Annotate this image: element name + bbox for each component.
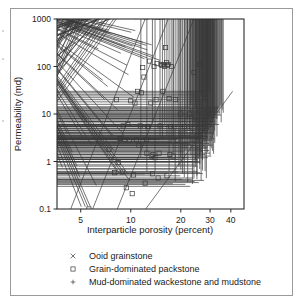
legend-marker-square bbox=[71, 267, 75, 271]
data-point bbox=[0, 0, 137, 19]
legend-marker-x bbox=[71, 254, 76, 259]
data-point bbox=[0, 0, 128, 75]
data-point bbox=[0, 0, 147, 50]
legend-label: Grain-dominated packstone bbox=[89, 264, 200, 274]
data-point bbox=[0, 0, 160, 60]
data-point bbox=[0, 0, 188, 110]
data-point bbox=[129, 99, 133, 103]
y-tick-label: 0.1 bbox=[39, 204, 51, 214]
legend-label: Mud-dominated wackestone and mudstone bbox=[89, 277, 261, 287]
data-point bbox=[0, 0, 149, 19]
x-axis-title: Interparticle porosity (percent) bbox=[87, 224, 213, 235]
data-point bbox=[0, 0, 145, 19]
y-tick-label: 10 bbox=[42, 109, 52, 119]
y-tick-label: 1000 bbox=[32, 14, 51, 24]
data-point bbox=[141, 65, 145, 69]
data-point bbox=[0, 0, 146, 45]
y-tick-label: 1 bbox=[46, 157, 51, 167]
data-point bbox=[0, 0, 205, 138]
x-tick-label: 40 bbox=[226, 215, 236, 225]
data-point bbox=[0, 0, 158, 19]
data-series-group bbox=[0, 0, 223, 211]
data-point bbox=[0, 0, 133, 46]
permeability-porosity-scatter-chart: 0.11101001000 510203040 Interparticle po… bbox=[0, 0, 304, 308]
legend-label: Ooid grainstone bbox=[89, 251, 153, 261]
data-point bbox=[0, 0, 198, 138]
data-point bbox=[0, 0, 111, 34]
data-point bbox=[0, 0, 197, 116]
x-tick-label: 5 bbox=[78, 215, 83, 225]
y-axis-ticks: 0.11101001000 bbox=[32, 14, 57, 214]
data-point bbox=[0, 0, 195, 110]
x-axis-ticks: 510203040 bbox=[78, 209, 235, 225]
data-point bbox=[0, 0, 144, 18]
data-point bbox=[0, 0, 160, 20]
data-point bbox=[0, 0, 62, 167]
data-point bbox=[0, 0, 150, 18]
data-point bbox=[0, 0, 165, 19]
data-point bbox=[0, 0, 139, 17]
data-point bbox=[0, 0, 155, 18]
data-point bbox=[0, 0, 108, 86]
data-point bbox=[0, 0, 162, 19]
chart-legend: Ooid grainstoneGrain-dominated packstone… bbox=[71, 251, 261, 287]
data-point bbox=[0, 0, 153, 56]
data-point bbox=[0, 0, 198, 145]
data-point bbox=[0, 0, 154, 19]
data-point bbox=[0, 0, 153, 17]
data-point bbox=[130, 192, 134, 196]
data-point bbox=[0, 0, 152, 45]
data-point bbox=[0, 0, 188, 121]
y-tick-label: 100 bbox=[37, 62, 51, 72]
figure-container: 0.11101001000 510203040 Interparticle po… bbox=[0, 0, 304, 308]
data-point bbox=[0, 0, 140, 17]
data-point bbox=[0, 0, 197, 178]
data-point bbox=[0, 0, 135, 31]
data-point bbox=[0, 0, 205, 104]
legend-marker-plus bbox=[71, 280, 76, 285]
y-axis-title: Permeability (md) bbox=[12, 77, 23, 151]
